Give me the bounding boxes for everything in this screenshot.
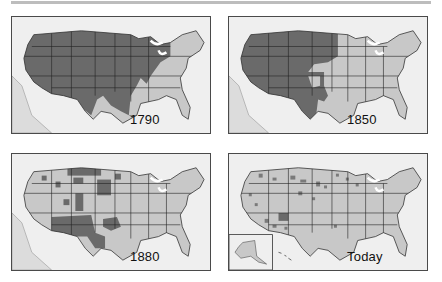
us-map-today (229, 154, 427, 270)
map-1880: 1880 (11, 153, 211, 271)
us-map-1790 (12, 17, 210, 133)
year-label: Today (347, 249, 383, 264)
us-map-1850 (229, 17, 427, 133)
us-map-1880 (12, 154, 210, 270)
top-rule (11, 1, 431, 4)
map-1790: 1790 (11, 16, 211, 134)
year-label: 1790 (130, 112, 160, 127)
map-1850: 1850 (228, 16, 428, 134)
year-label: 1850 (347, 112, 377, 127)
map-today: Today (228, 153, 428, 271)
year-label: 1880 (130, 249, 160, 264)
